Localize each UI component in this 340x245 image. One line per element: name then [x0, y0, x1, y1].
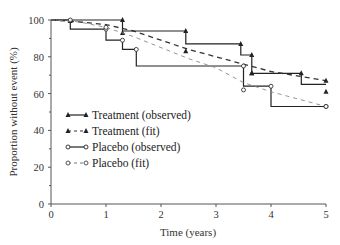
legend-label: Placebo (fit)	[92, 157, 149, 170]
plot-area	[51, 17, 329, 108]
circle-marker-icon	[134, 47, 138, 51]
y-tick-label: 100	[28, 15, 44, 26]
circle-marker-icon	[242, 64, 246, 68]
y-tick-label: 0	[39, 199, 44, 210]
circle-marker-icon	[269, 84, 273, 88]
triangle-marker-icon	[183, 48, 188, 53]
legend-label: Placebo (observed)	[92, 141, 181, 154]
legend: Treatment (observed) Treatment (fit) Pla…	[66, 109, 192, 170]
x-tick-label: 5	[323, 209, 328, 220]
legend-item-placebo-observed: Placebo (observed)	[66, 141, 181, 154]
open-circle-icon	[84, 145, 88, 149]
legend-label: Treatment (fit)	[92, 125, 160, 138]
legend-label: Treatment (observed)	[92, 109, 191, 122]
circle-marker-icon	[104, 25, 108, 29]
legend-item-treatment-fit: Treatment (fit)	[66, 125, 160, 138]
circle-marker-icon	[242, 88, 246, 92]
y-tick-label: 20	[34, 162, 45, 173]
x-tick-label: 2	[158, 209, 163, 220]
x-tick-label: 3	[213, 209, 218, 220]
y-axis-title: Proportion without event (%)	[7, 47, 20, 177]
x-tick-label: 4	[268, 209, 274, 220]
filled-triangle-icon	[84, 128, 89, 133]
y-tick-label: 80	[34, 52, 45, 63]
y-tick-label: 60	[34, 89, 45, 100]
open-circle-icon	[66, 161, 70, 165]
open-circle-icon	[84, 161, 88, 165]
x-axis-title: Time (years)	[160, 226, 216, 239]
y-tick-label: 40	[34, 125, 45, 136]
survival-chart: 012345020406080100 Time (years) Proporti…	[0, 0, 340, 245]
x-tick-label: 0	[48, 209, 53, 220]
x-tick-label: 1	[103, 209, 108, 220]
triangle-marker-icon	[324, 89, 329, 94]
series-line	[51, 20, 326, 107]
legend-item-placebo-fit: Placebo (fit)	[66, 157, 149, 170]
legend-item-treatment-observed: Treatment (observed)	[66, 109, 192, 122]
open-circle-icon	[66, 145, 70, 149]
circle-marker-icon	[121, 38, 125, 42]
series-line	[51, 20, 326, 107]
circle-marker-icon	[324, 104, 328, 108]
